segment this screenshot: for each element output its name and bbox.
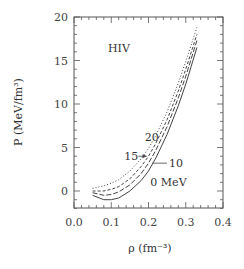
x-tick-label: 0.3 — [177, 216, 195, 229]
x-tick-label: 0.2 — [140, 216, 158, 229]
panel-label: HIV — [108, 42, 131, 55]
curve-annotation: 20 — [145, 131, 159, 144]
axis-ticks — [74, 17, 223, 208]
y-tick-label: 10 — [54, 98, 68, 111]
x-tick-label: 0.4 — [214, 216, 232, 229]
y-tick-label: 0 — [61, 185, 68, 198]
curve-annotation: 10 — [169, 157, 183, 170]
y-tick-label: 15 — [54, 55, 68, 68]
y-axis-label: P (MeV/fm³) — [12, 78, 25, 146]
plot-frame — [74, 17, 223, 208]
x-tick-label: 0.0 — [65, 216, 83, 229]
curve-annotation: 0 MeV — [150, 176, 187, 189]
x-axis-label: ρ (fm⁻³) — [128, 242, 171, 255]
curve-10-mev — [93, 41, 197, 196]
y-tick-label: 20 — [54, 11, 68, 24]
curve-annotation: 15 — [124, 150, 138, 163]
x-tick-labels: 0.00.10.20.30.4 — [65, 216, 232, 229]
pressure-density-chart: 0.00.10.20.30.4 05101520 HIV ρ (fm⁻³) P … — [0, 0, 244, 269]
x-tick-label: 0.1 — [103, 216, 121, 229]
y-tick-labels: 05101520 — [54, 11, 68, 198]
y-tick-label: 5 — [61, 142, 68, 155]
